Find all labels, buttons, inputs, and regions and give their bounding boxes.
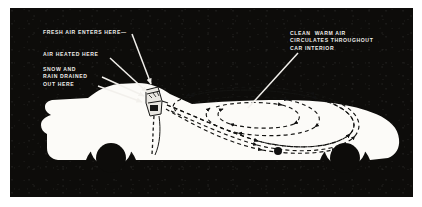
callout-clean-warm-air: CLEAN WARM AIR CIRCULATES THROUGHOUT CAR… xyxy=(290,30,373,52)
leader-line-right xyxy=(248,53,298,108)
callout-air-heated: AIR HEATED HERE xyxy=(43,51,99,58)
figure-canvas: FRESH AIR ENTERS HERE— AIR HEATED HERE S… xyxy=(0,0,422,207)
outlet-marker xyxy=(274,147,282,155)
car-silhouette xyxy=(41,83,399,173)
callout-snow-rain-drained: SNOW AND RAIN DRAINED OUT HERE xyxy=(43,66,88,88)
illustration-panel: FRESH AIR ENTERS HERE— AIR HEATED HERE S… xyxy=(10,8,413,197)
callout-fresh-air: FRESH AIR ENTERS HERE— xyxy=(43,29,127,36)
